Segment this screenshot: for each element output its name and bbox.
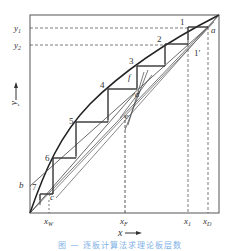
stage-7-label: 7 <box>32 182 37 192</box>
stage-3-label: 3 <box>129 56 134 66</box>
point-d-label: d <box>135 89 140 99</box>
rectifying-operating-line <box>30 27 208 186</box>
x-axis-label: x <box>117 227 123 238</box>
y-axis-label: y <box>8 100 19 106</box>
point-c-label: c <box>50 192 54 202</box>
stage-4-label: 4 <box>100 80 105 90</box>
mccabe-thiele-diagram: y1 y2 y xW xF x1 xD x 1 2 3 4 5 6 7 1′ a… <box>0 0 235 251</box>
y1-label: y1 <box>13 23 21 34</box>
xw-label: xW <box>43 216 54 227</box>
xf-label: xF <box>119 216 128 227</box>
stage-2-label: 2 <box>157 34 162 44</box>
stage-1-label: 1 <box>180 17 185 27</box>
point-a-label: a <box>211 25 216 35</box>
x-axis-arrowhead-icon <box>136 231 142 235</box>
y2-label: y2 <box>13 40 21 51</box>
x1-label: x1 <box>183 216 191 227</box>
point-e-label: e <box>125 112 129 121</box>
point-f-label: f <box>128 72 132 82</box>
stage-6-label: 6 <box>45 153 50 163</box>
y-axis-arrowhead-icon <box>14 82 18 88</box>
stage-5-label: 5 <box>69 116 74 126</box>
figure-caption: 图 — 逐板计算法求理论板层数 <box>20 239 220 249</box>
auxiliary-line <box>56 15 219 198</box>
svg-text:y: y <box>8 100 19 106</box>
point-b-label: b <box>19 180 24 190</box>
xd-label: xD <box>202 216 212 227</box>
stage-1prime-label: 1′ <box>194 48 201 58</box>
